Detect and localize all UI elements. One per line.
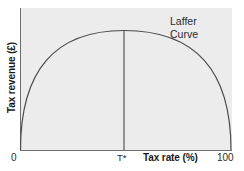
curve-layer: [0, 0, 244, 171]
x-tick-label-max: 100: [217, 152, 234, 163]
laffer-curve-figure: Tax revenue (£) Tax rate (%) 0 T* 100 La…: [0, 0, 244, 171]
y-axis-title: Tax revenue (£): [6, 18, 17, 138]
x-tick-label-origin: 0: [11, 152, 17, 163]
laffer-curve-path: [21, 31, 232, 151]
curve-annotation-line-1: Laffer: [170, 15, 198, 28]
x-tick-label-optimal: T*: [117, 152, 127, 163]
curve-annotation: Laffer Curve: [170, 15, 198, 41]
curve-annotation-line-2: Curve: [170, 28, 198, 41]
x-axis-title: Tax rate (%): [143, 152, 198, 163]
